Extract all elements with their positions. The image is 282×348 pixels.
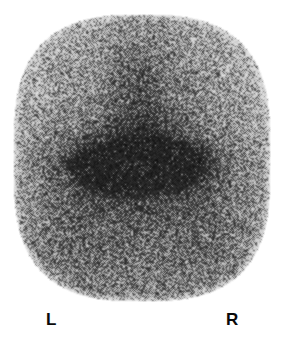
- orientation-marker-left: L: [46, 311, 56, 328]
- scintigram-page: L R: [0, 0, 282, 348]
- scintigram-canvas: [0, 0, 282, 310]
- scan-image-region: [0, 0, 282, 310]
- orientation-marker-right: R: [226, 311, 238, 328]
